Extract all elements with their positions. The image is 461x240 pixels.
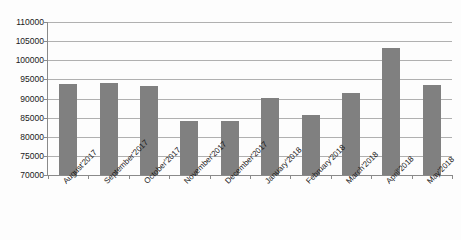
y-axis-tick-label: 105000 bbox=[0, 37, 44, 46]
y-axis-tick-label: 75000 bbox=[0, 152, 44, 161]
x-axis-tick-mark bbox=[129, 175, 130, 179]
bar bbox=[382, 48, 400, 175]
y-axis-tick-label: 70000 bbox=[0, 171, 44, 180]
x-axis-tick-mark bbox=[371, 175, 372, 179]
x-axis-tick-mark bbox=[48, 175, 49, 179]
gridline bbox=[48, 22, 452, 23]
y-axis-tick-label: 100000 bbox=[0, 56, 44, 65]
bar bbox=[342, 93, 360, 175]
x-axis-tick-mark bbox=[210, 175, 211, 179]
y-axis-tick-label: 110000 bbox=[0, 18, 44, 27]
x-axis-tick-mark bbox=[290, 175, 291, 179]
gridline bbox=[48, 41, 452, 42]
x-axis-tick-mark bbox=[250, 175, 251, 179]
x-axis-tick-mark bbox=[169, 175, 170, 179]
y-axis-tick-label: 85000 bbox=[0, 114, 44, 123]
x-axis-tick-mark bbox=[452, 175, 453, 179]
y-axis-tick-label: 80000 bbox=[0, 133, 44, 142]
bar bbox=[59, 84, 77, 175]
x-axis-tick-mark bbox=[412, 175, 413, 179]
bar bbox=[140, 86, 158, 176]
bar-chart: 1100001050001000009500090000850008000075… bbox=[0, 0, 461, 240]
x-axis-tick-mark bbox=[88, 175, 89, 179]
y-axis-tick-label: 90000 bbox=[0, 95, 44, 104]
y-axis-tick-label: 95000 bbox=[0, 75, 44, 84]
bar bbox=[100, 83, 118, 175]
bar bbox=[423, 85, 441, 175]
bar bbox=[261, 98, 279, 175]
x-axis-tick-mark bbox=[331, 175, 332, 179]
